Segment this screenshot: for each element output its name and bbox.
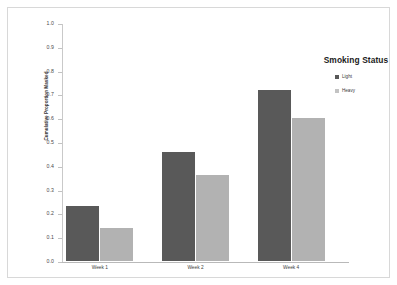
x-axis-label: Week 4 <box>258 265 325 270</box>
x-axis-line <box>62 262 349 263</box>
x-axis-label: Week 2 <box>162 265 229 270</box>
legend-swatch-light <box>335 75 339 79</box>
legend-entries: LightHeavy <box>313 74 397 93</box>
legend-swatch-heavy <box>335 89 339 93</box>
legend-label: Light <box>342 74 352 79</box>
legend-label: Heavy <box>342 88 355 93</box>
y-tick-mark <box>58 262 62 263</box>
bar-light-week-4[interactable] <box>258 90 291 261</box>
legend-title: Smoking Status <box>313 55 397 65</box>
legend-item-heavy[interactable]: Heavy <box>313 88 397 93</box>
chart-legend: Smoking Status LightHeavy <box>313 55 397 93</box>
chart-frame: Cumulative Proportion Masked 0.00.10.20.… <box>7 7 390 278</box>
legend-item-light[interactable]: Light <box>313 74 397 79</box>
x-axis-label: Week 1 <box>66 265 133 270</box>
bar-heavy-week-4[interactable] <box>292 118 325 261</box>
